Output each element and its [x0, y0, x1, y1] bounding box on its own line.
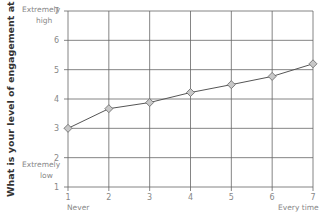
svg-text:4: 4 — [188, 193, 193, 202]
svg-text:1: 1 — [65, 193, 70, 202]
y-high-label-1: Extremely — [22, 5, 60, 14]
tick-labels: 12345671234567 — [54, 7, 316, 202]
data-point-marker — [268, 72, 276, 80]
y-low-label-1: Extremely — [22, 160, 60, 169]
svg-text:5: 5 — [229, 193, 234, 202]
y-low-label-2: low — [40, 171, 53, 180]
svg-text:3: 3 — [54, 124, 59, 133]
y-axis-title: What is your level of engagement at work… — [5, 17, 19, 197]
svg-text:2: 2 — [106, 193, 111, 202]
y-high-label-2: high — [36, 16, 52, 25]
line-chart: 12345671234567 — [0, 0, 319, 218]
data-point-marker — [309, 60, 317, 68]
data-point-marker — [227, 81, 235, 89]
svg-text:3: 3 — [147, 193, 152, 202]
svg-text:7: 7 — [310, 193, 315, 202]
x-high-label: Every time — [278, 203, 319, 212]
svg-text:5: 5 — [54, 66, 59, 75]
x-low-label: Never — [67, 203, 89, 212]
svg-text:6: 6 — [270, 193, 275, 202]
data-point-marker — [146, 99, 154, 107]
data-point-marker — [187, 89, 195, 97]
data-point-marker — [105, 105, 113, 113]
grid-lines — [64, 11, 313, 191]
svg-text:6: 6 — [54, 36, 59, 45]
data-point-marker — [64, 124, 72, 132]
svg-text:1: 1 — [54, 183, 59, 192]
svg-text:4: 4 — [54, 95, 59, 104]
